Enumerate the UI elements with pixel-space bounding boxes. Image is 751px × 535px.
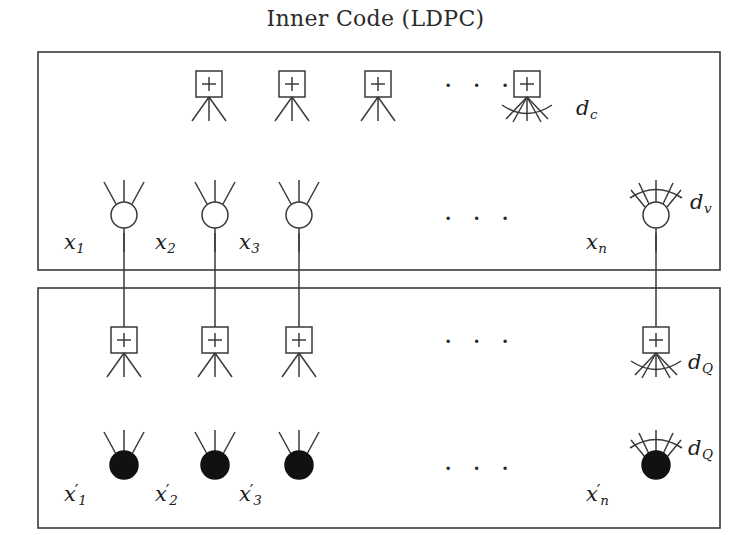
label-dq-variable-sub: Q — [702, 447, 713, 462]
label-dc-base: d — [576, 96, 589, 120]
ellipsis-variable-row-top: · · · — [444, 205, 515, 231]
outer-code-box — [38, 288, 720, 528]
label-xn-prime-sub: n — [600, 493, 609, 508]
label-xn-base: x — [586, 230, 598, 254]
label-x2-prime-sub: 2 — [169, 493, 178, 508]
label-dv-base: d — [690, 190, 703, 214]
label-dq-check-sub: Q — [702, 361, 713, 376]
variable-node-x3-prime — [279, 430, 319, 479]
label-x3-prime-sub: 3 — [253, 493, 262, 508]
label-dq-check: dQ — [688, 352, 713, 375]
ellipsis-check-row-top: · · · — [444, 72, 515, 98]
variable-node-xn-prime — [630, 430, 682, 479]
label-x1: x1 — [64, 232, 85, 255]
label-x1-base: x — [64, 230, 76, 254]
label-x3-sub: 3 — [251, 241, 260, 256]
label-x1-prime-sub: 1 — [78, 493, 87, 508]
label-xn-sub: n — [598, 241, 607, 256]
label-x1-sub: 1 — [76, 241, 85, 256]
label-xn-prime: x′n — [586, 482, 609, 508]
figure-canvas: Inner Code (LDPC) — [0, 0, 751, 535]
label-xn: xn — [586, 232, 607, 255]
check-node-top-2 — [275, 71, 309, 121]
check-node-bottom-last — [631, 327, 681, 378]
ellipsis-variable-row-bottom: · · · — [444, 455, 515, 481]
label-x2: x2 — [155, 232, 176, 255]
label-x3-base: x — [239, 230, 251, 254]
variable-node-x3 — [279, 180, 319, 252]
inter-box-edges — [124, 233, 656, 327]
label-dv-sub: v — [704, 201, 712, 216]
check-node-top-1 — [192, 71, 226, 121]
check-node-bottom-1 — [107, 327, 141, 377]
label-x1-prime: x′1 — [64, 482, 87, 508]
check-node-bottom-3 — [282, 327, 316, 377]
label-x3: x3 — [239, 232, 260, 255]
label-dq-variable: dQ — [688, 438, 713, 461]
ellipsis-check-row-bottom: · · · — [444, 328, 515, 354]
variable-node-x1 — [104, 180, 144, 252]
check-node-top-3 — [361, 71, 395, 121]
variable-node-x1-prime — [104, 430, 144, 479]
variable-node-xn — [630, 180, 682, 252]
label-dq-check-base: d — [688, 350, 701, 374]
label-dv: dv — [690, 192, 712, 215]
label-x3-prime: x′3 — [239, 482, 262, 508]
label-x2-base: x — [155, 230, 167, 254]
label-x2-prime: x′2 — [155, 482, 178, 508]
check-node-bottom-2 — [198, 327, 232, 377]
variable-node-x2 — [195, 180, 235, 252]
label-dc: dc — [576, 98, 597, 121]
label-x2-sub: 2 — [167, 241, 176, 256]
variable-node-x2-prime — [195, 430, 235, 479]
tanner-graph-diagram — [0, 0, 751, 535]
label-dc-sub: c — [590, 107, 598, 122]
label-dq-variable-base: d — [688, 436, 701, 460]
